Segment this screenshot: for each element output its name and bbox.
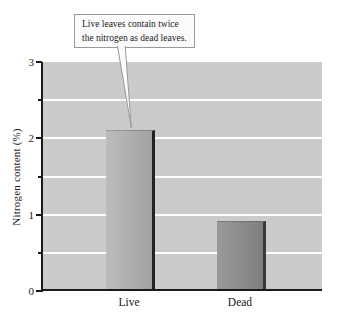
annotation-callout: Live leaves contain twice the nitrogen a… <box>74 14 195 48</box>
bar-dead <box>217 221 266 291</box>
y-tick-label-3: 3 <box>18 57 34 68</box>
y-major-tick-2 <box>36 137 42 139</box>
y-minor-tick-1.5 <box>38 176 42 178</box>
y-tick-label-2: 2 <box>18 133 34 144</box>
bar-chart-figure: Nitrogen content (%) Live leaves contain… <box>0 0 337 323</box>
gridline-2.5 <box>43 99 322 101</box>
gridline-2 <box>43 137 322 139</box>
bar-live <box>106 130 155 291</box>
x-tick-label-live: Live <box>99 296 159 309</box>
y-minor-tick-2.5 <box>38 99 42 101</box>
gridline-1.5 <box>43 176 322 178</box>
y-tick-label-0: 0 <box>18 286 34 297</box>
x-tick-label-dead: Dead <box>210 296 270 309</box>
gridline-0.5 <box>43 252 322 254</box>
annotation-line-2: the nitrogen as dead leaves. <box>82 31 194 45</box>
annotation-line-1: Live leaves contain twice <box>82 17 194 31</box>
y-major-tick-1 <box>36 214 42 216</box>
y-minor-tick-0.5 <box>38 252 42 254</box>
y-major-tick-0 <box>36 290 42 292</box>
x-axis-line <box>41 289 322 291</box>
gridline-1 <box>43 214 322 216</box>
plot-area <box>43 62 322 291</box>
y-tick-label-1: 1 <box>18 209 34 220</box>
y-major-tick-3 <box>36 61 42 63</box>
